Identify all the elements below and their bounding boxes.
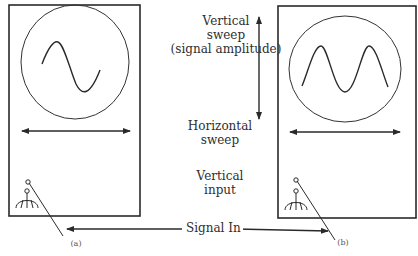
oscilloscope-panel-b bbox=[278, 6, 416, 240]
waveform-b bbox=[302, 46, 388, 92]
caption-b: (b) bbox=[333, 238, 353, 247]
crt-screen-b bbox=[289, 16, 401, 122]
horizontal-sweep-line2: sweep bbox=[165, 133, 275, 147]
horizontal-sweep-label: Horizontal sweep bbox=[165, 119, 275, 147]
caption-a: (a) bbox=[66, 239, 86, 248]
horizontal-sweep-line1: Horizontal bbox=[165, 119, 275, 133]
waveform-a bbox=[42, 42, 100, 92]
vertical-sweep-line1: Vertical bbox=[165, 14, 287, 28]
signal-in-label: Signal In bbox=[184, 221, 243, 235]
vertical-input-line2: input bbox=[165, 183, 275, 197]
crt-screen-a bbox=[21, 5, 129, 119]
vertical-sweep-line2: sweep bbox=[165, 28, 287, 42]
vertical-sweep-line3: (signal amplitude) bbox=[165, 42, 287, 56]
oscilloscope-frame-b bbox=[278, 6, 416, 218]
vertical-input-label: Vertical input bbox=[165, 169, 275, 197]
signal-in-line-right bbox=[236, 229, 328, 231]
vertical-sweep-label: Vertical sweep (signal amplitude) bbox=[165, 14, 287, 56]
probe-lead-a bbox=[29, 183, 63, 236]
input-connector-icon-b bbox=[285, 178, 307, 210]
vertical-input-line1: Vertical bbox=[165, 169, 275, 183]
input-connector-icon-a bbox=[16, 180, 38, 208]
oscilloscope-panel-a bbox=[9, 5, 140, 236]
